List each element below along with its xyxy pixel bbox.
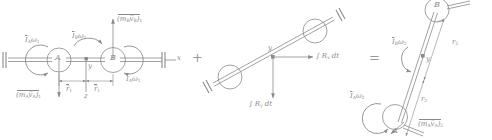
operator-plus: +: [192, 50, 203, 65]
label-disk-a: A: [55, 53, 61, 62]
couple-arrow-ia-left: [26, 45, 48, 75]
label-ma-va-2: (mAv̅A)2: [418, 120, 443, 128]
label-impulse-y: ∫ Ry dt: [249, 100, 272, 108]
rod3-stub-top: [447, 1, 470, 6]
origin-point: [85, 57, 88, 60]
label-axis-z-1: z: [84, 92, 88, 100]
origin3-point: [421, 54, 425, 58]
label-ia-omega1-left: I̅Aω1: [25, 36, 39, 44]
label-r2-lower: r2: [421, 95, 427, 103]
label-axis-y-1: y: [88, 62, 92, 70]
label-impulse-x: ∫ Rx dt: [316, 52, 339, 60]
label-r1-right: r̅1: [94, 85, 100, 93]
disk2-a: [218, 65, 242, 89]
label-disk-b: B: [110, 53, 116, 62]
label-mb-vb-1: (mBv̅B)1: [117, 15, 142, 23]
couple-arrow-ib-2: [402, 47, 411, 72]
couple-arrow-ia-2: [362, 104, 388, 134]
label-ib-omega1-mid: I̅Bω1: [72, 32, 86, 40]
label-r1-left: r̅1: [66, 85, 72, 93]
rod3-stub-low-b: [403, 128, 423, 136]
dim-r2-upper: [424, 19, 444, 80]
operator-equals: =: [369, 50, 380, 65]
label-ma-va-1: (mAv̅A)1: [16, 91, 41, 99]
label-disk3-a: A: [392, 126, 398, 135]
rod3-right: [402, 13, 438, 123]
figure-canvas: I̅Aω1 I̅Bω1 I̅Aω1 (mBv̅B)1 (mAv̅A)1 r̅1 …: [0, 0, 492, 140]
panel1-group: [3, 19, 176, 97]
label-axis-y-3: y: [426, 55, 430, 63]
panel3-group: [362, 0, 470, 136]
label-ia-omega1-right: I̅Aω1: [126, 75, 140, 83]
label-ia-omega2: I̅Aω2: [350, 92, 364, 100]
label-r2-upper: r2: [452, 38, 458, 46]
label-disk3-b: B: [434, 0, 440, 9]
label-axis-y-2: y: [268, 44, 272, 52]
couple-arrow-ia-right: [124, 46, 143, 74]
label-axis-x-1: x: [177, 54, 181, 62]
rod3-stub-bottom: [447, 4, 470, 9]
label-ib-omega2: I̅Bω2: [392, 38, 406, 46]
